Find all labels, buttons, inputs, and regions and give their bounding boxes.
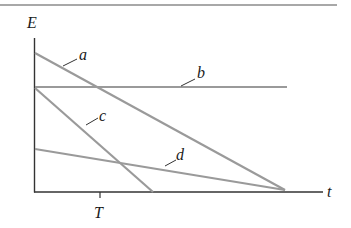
leader-a	[63, 59, 77, 66]
leader-c	[86, 118, 98, 125]
label-d: d	[176, 146, 185, 163]
x-axis-label: t	[327, 183, 332, 200]
label-c: c	[99, 107, 106, 124]
label-b: b	[197, 64, 205, 81]
label-a: a	[79, 46, 87, 63]
energy-time-diagram: E t T a b c d	[0, 0, 351, 228]
leader-b	[181, 79, 195, 86]
t-tick-label: T	[94, 204, 104, 221]
leader-d	[165, 160, 176, 166]
y-axis-label: E	[26, 14, 37, 31]
line-c	[35, 88, 153, 192]
